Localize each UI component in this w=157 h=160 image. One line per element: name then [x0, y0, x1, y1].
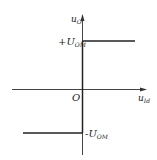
origin-label: O: [72, 92, 80, 103]
x-axis-arrow-icon: [140, 88, 147, 92]
lower-level-label: -UOM: [85, 128, 109, 140]
transfer-characteristic-diagram: uO uId O +UOM -UOM: [0, 0, 157, 160]
y-axis-label: uO: [71, 14, 82, 25]
x-axis-label: uId: [138, 93, 150, 104]
